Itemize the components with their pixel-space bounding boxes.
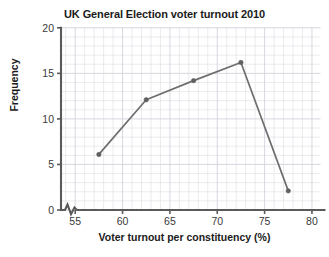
data-point-markers [97,60,291,193]
x-axis-title: Voter turnout per constituency (%) [40,231,329,243]
axis-tick-labels: 05101520556065707580 [42,22,318,227]
svg-text:60: 60 [117,215,129,227]
axis-ticks [57,28,312,214]
svg-text:5: 5 [48,158,54,170]
svg-text:75: 75 [259,215,271,227]
svg-text:10: 10 [42,113,54,125]
svg-text:70: 70 [211,215,223,227]
axis-lines [61,28,324,214]
svg-text:80: 80 [306,215,318,227]
chart-plot-area: 05101520556065707580 [0,0,329,257]
svg-text:0: 0 [48,204,54,216]
svg-text:65: 65 [164,215,176,227]
chart-container: UK General Election voter turnout 2010 0… [0,0,329,257]
svg-text:55: 55 [69,215,81,227]
y-axis-title: Frequency [8,39,20,131]
svg-text:20: 20 [42,22,54,34]
svg-text:15: 15 [42,67,54,79]
